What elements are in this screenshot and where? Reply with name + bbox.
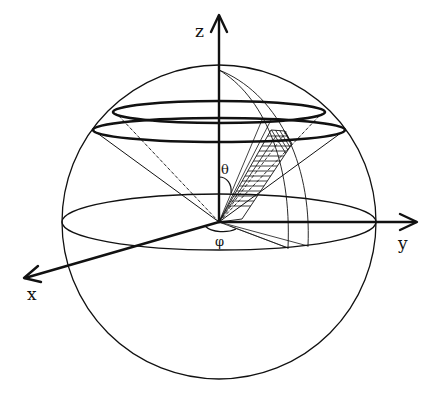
cone-line-left-inner-dashed xyxy=(117,114,219,222)
radius-line-3 xyxy=(219,136,276,222)
cone-line-right-outer xyxy=(219,130,345,222)
cone-line-left-outer xyxy=(93,130,219,222)
phi-label: φ xyxy=(215,234,224,249)
spherical-coordinates-diagram: z y x θ φ xyxy=(0,0,439,394)
projection-line-2 xyxy=(219,222,308,246)
theta-label: θ xyxy=(221,162,229,177)
theta-arc xyxy=(219,177,231,193)
y-axis-label: y xyxy=(397,233,408,253)
meridian-2 xyxy=(219,70,308,246)
z-axis-label: z xyxy=(195,21,204,41)
projection-line-3 xyxy=(230,226,288,248)
radius-line-dashed xyxy=(219,132,286,222)
x-axis-label: x xyxy=(27,284,37,304)
